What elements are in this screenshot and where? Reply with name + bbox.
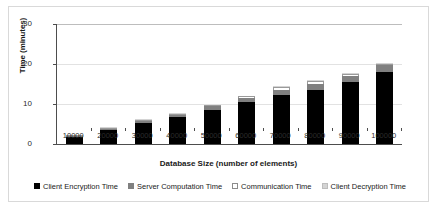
bar-slot xyxy=(264,24,299,144)
y-axis-tick-label: 0 xyxy=(8,140,32,148)
legend-swatch-icon xyxy=(34,183,40,189)
bar-slot xyxy=(57,24,92,144)
y-axis-tick-label: 10 xyxy=(8,100,32,108)
bar-segment xyxy=(376,65,393,72)
legend-item[interactable]: Server Computation Time xyxy=(128,182,222,191)
bar-slot xyxy=(161,24,196,144)
y-axis-tick-mark xyxy=(53,144,56,145)
legend-swatch-icon xyxy=(128,183,134,189)
bar-slot xyxy=(230,24,265,144)
y-axis-tick-label: 20 xyxy=(8,60,32,68)
x-axis-tick-mark xyxy=(401,128,402,131)
bar-slot xyxy=(299,24,334,144)
bar-slot xyxy=(333,24,368,144)
bar-slot xyxy=(126,24,161,144)
bar-slot xyxy=(368,24,403,144)
legend-item[interactable]: Communication Time xyxy=(232,182,311,191)
legend-label: Server Computation Time xyxy=(137,182,222,191)
legend-item[interactable]: Client Decryption Time xyxy=(322,182,406,191)
legend-item[interactable]: Client Encryption Time xyxy=(34,182,118,191)
y-axis-tick-mark xyxy=(53,64,56,65)
plot-area xyxy=(56,24,402,145)
chart-legend: Client Encryption TimeServer Computation… xyxy=(23,179,417,193)
y-axis-title: Time (minutes) xyxy=(18,0,27,98)
y-axis-tick-mark xyxy=(53,104,56,105)
bar-slot xyxy=(195,24,230,144)
x-axis-title: Database Size (number of elements) xyxy=(56,159,401,168)
bar-slot xyxy=(92,24,127,144)
legend-label: Client Decryption Time xyxy=(331,182,406,191)
legend-label: Client Encryption Time xyxy=(43,182,118,191)
y-axis-tick-mark xyxy=(53,24,56,25)
legend-swatch-icon xyxy=(322,183,328,189)
legend-label: Communication Time xyxy=(241,182,311,191)
y-axis-tick-label: 30 xyxy=(8,20,32,28)
x-axis-tick-label: 100000 xyxy=(362,131,406,140)
chart-container: Time (minutes) 0102030 10000200003000040… xyxy=(8,6,429,202)
legend-swatch-icon xyxy=(232,183,238,189)
bar-series-group xyxy=(57,24,402,144)
